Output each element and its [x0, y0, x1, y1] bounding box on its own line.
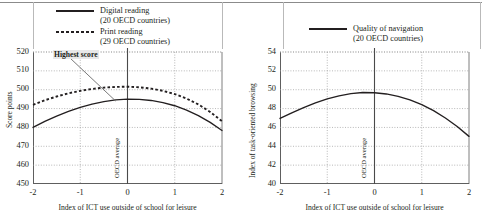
x-axis-tick-label: -2 [268, 188, 292, 197]
y-axis-tick-label: 510 [1, 65, 29, 74]
chart-canvas-right [241, 0, 482, 216]
y-axis-tick-label: 44 [248, 141, 276, 150]
x-axis-title-right: Index of ICT use outside of school for l… [280, 203, 469, 212]
oecd-average-label-left: OECD average [113, 138, 120, 178]
y-axis-tick-label: 46 [248, 122, 276, 131]
y-axis-tick-label: 40 [248, 179, 276, 188]
x-axis-tick-label: 1 [410, 188, 434, 197]
panel-digital-print-reading: Digital reading (20 OECD countries) Prin… [0, 0, 241, 216]
y-axis-tick-label: 490 [1, 103, 29, 112]
y-axis-tick-label: 54 [248, 47, 276, 56]
plot-area-right: Index of task-oriented browsing Index of… [241, 0, 482, 216]
y-axis-tick-label: 460 [1, 160, 29, 169]
annotation-leader-line [70, 58, 116, 101]
x-axis-tick-label: 2 [457, 188, 481, 197]
x-axis-tick-label: 0 [363, 188, 387, 197]
x-axis-tick-label: 1 [163, 188, 187, 197]
x-axis-tick-label: 0 [116, 188, 140, 197]
highest-score-annotation: Highest score [53, 50, 99, 59]
x-axis-tick-label: -1 [315, 188, 339, 197]
panel-quality-of-navigation: Quality of navigation (20 OECD countries… [241, 0, 482, 216]
y-axis-tick-label: 470 [1, 141, 29, 150]
x-axis-tick-label: 2 [210, 188, 234, 197]
y-axis-tick-label: 50 [248, 84, 276, 93]
x-axis-tick-label: -2 [21, 188, 45, 197]
x-axis-tick-label: -1 [68, 188, 92, 197]
y-axis-tick-label: 520 [1, 47, 29, 56]
y-axis-tick-label: 48 [248, 103, 276, 112]
oecd-average-label-right: OECD average [360, 138, 367, 178]
plot-area-left: Score points Index of ICT use outside of… [0, 0, 241, 216]
x-axis-title-left: Index of ICT use outside of school for l… [33, 203, 222, 212]
y-axis-tick-label: 480 [1, 122, 29, 131]
figure-root: Digital reading (20 OECD countries) Prin… [0, 0, 482, 216]
chart-canvas-left [0, 0, 241, 216]
y-axis-tick-label: 52 [248, 65, 276, 74]
y-axis-tick-label: 42 [248, 160, 276, 169]
y-axis-tick-label: 450 [1, 179, 29, 188]
y-axis-tick-label: 500 [1, 84, 29, 93]
